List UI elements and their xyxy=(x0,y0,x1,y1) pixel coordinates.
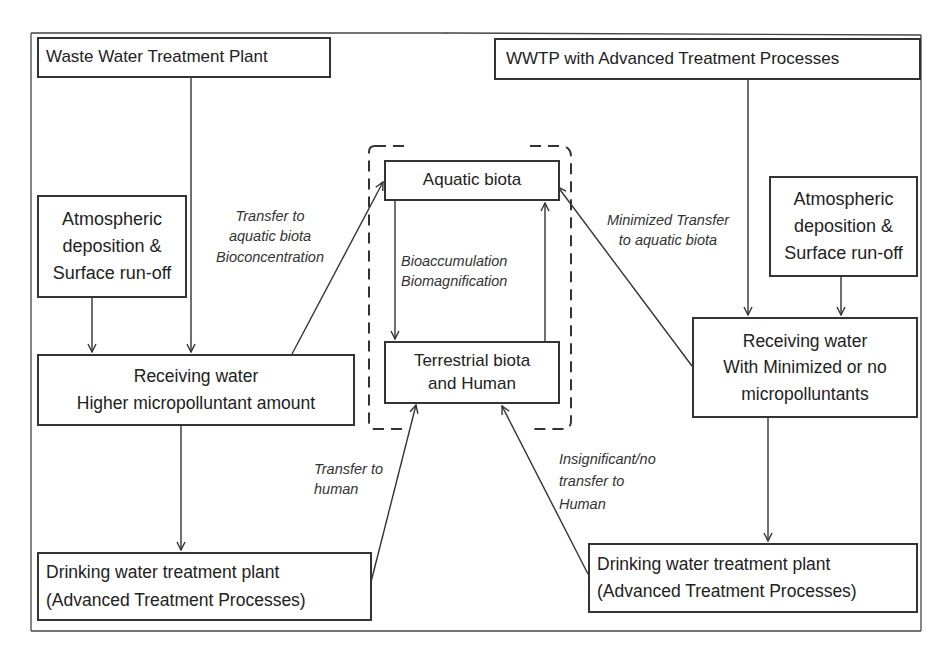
transfer-aquatic-line1: Transfer to xyxy=(202,206,338,226)
minimized-transfer-label: Minimized Transfer to aquatic biota xyxy=(595,210,741,251)
wwtp-advanced-box: WWTP with Advanced Treatment Processes xyxy=(494,38,921,80)
bioaccumulation-text: Bioaccumulation xyxy=(401,251,507,271)
transfer-human-label: Transfer to human xyxy=(314,459,383,500)
atmospheric-left-line3: Surface run-off xyxy=(53,260,172,287)
insignificant-transfer-line2: transfer to xyxy=(559,470,656,492)
transfer-aquatic-line3: Bioconcentration xyxy=(202,247,338,267)
drinking-left-line2: (Advanced Treatment Processes) xyxy=(46,587,306,614)
atmospheric-deposition-left-box: Atmospheric deposition & Surface run-off xyxy=(37,195,187,298)
biomagnification-text: Biomagnification xyxy=(401,271,507,291)
drinking-left-line1: Drinking water treatment plant xyxy=(46,559,279,586)
receiving-left-line2: Higher micropolluntant amount xyxy=(77,390,315,417)
receiving-right-line2: With Minimized or no xyxy=(723,354,886,380)
receiving-water-right-box: Receiving water With Minimized or no mic… xyxy=(692,317,918,418)
receiving-water-left-box: Receiving water Higher micropolluntant a… xyxy=(37,354,355,426)
aquatic-biota-title: Aquatic biota xyxy=(423,169,521,191)
atmospheric-left-line1: Atmospheric xyxy=(62,206,162,233)
terrestrial-line1: Terrestrial biota xyxy=(414,350,530,373)
drinking-water-left-box: Drinking water treatment plant (Advanced… xyxy=(37,552,372,621)
terrestrial-biota-box: Terrestrial biota and Human xyxy=(384,341,560,404)
receiving-left-line1: Receiving water xyxy=(134,363,259,390)
minimized-transfer-line1: Minimized Transfer xyxy=(595,210,741,230)
transfer-human-line1: Transfer to xyxy=(314,459,383,479)
insignificant-transfer-label: Insignificant/no transfer to Human xyxy=(559,448,656,515)
aquatic-biota-box: Aquatic biota xyxy=(384,160,560,201)
insignificant-transfer-line1: Insignificant/no xyxy=(559,448,656,470)
bioaccumulation-label: Bioaccumulation Biomagnification xyxy=(401,251,507,292)
wwtp-title: Waste Water Treatment Plant xyxy=(46,46,268,68)
minimized-transfer-line2: to aquatic biota xyxy=(595,230,741,250)
receiving-right-line3: micropolluntants xyxy=(741,381,868,407)
flow-diagram: Waste Water Treatment Plant Atmospheric … xyxy=(0,0,948,659)
transfer-aquatic-line2: aquatic biota xyxy=(202,226,338,246)
atmospheric-deposition-right-box: Atmospheric deposition & Surface run-off xyxy=(769,176,918,277)
transfer-aquatic-label: Transfer to aquatic biota Bioconcentrati… xyxy=(202,206,338,267)
terrestrial-line2: and Human xyxy=(428,373,516,396)
drinking-right-line1: Drinking water treatment plant xyxy=(597,551,830,578)
atmospheric-right-line3: Surface run-off xyxy=(784,240,903,267)
receiving-right-line1: Receiving water xyxy=(743,328,868,354)
insignificant-transfer-line3: Human xyxy=(559,493,656,515)
transfer-human-line2: human xyxy=(314,479,383,499)
wwtp-box: Waste Water Treatment Plant xyxy=(37,37,331,78)
drinking-water-right-box: Drinking water treatment plant (Advanced… xyxy=(588,543,918,613)
atmospheric-right-line1: Atmospheric xyxy=(793,186,893,213)
atmospheric-left-line2: deposition & xyxy=(62,233,161,260)
atmospheric-right-line2: deposition & xyxy=(794,213,893,240)
drinking-right-line2: (Advanced Treatment Processes) xyxy=(597,578,857,605)
wwtp-advanced-title: WWTP with Advanced Treatment Processes xyxy=(506,48,839,70)
